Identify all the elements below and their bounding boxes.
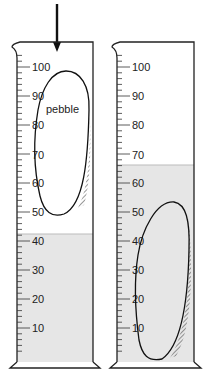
svg-text:90: 90 <box>32 90 44 102</box>
svg-text:80: 80 <box>32 119 44 131</box>
svg-text:60: 60 <box>132 177 144 189</box>
down-arrow-icon <box>53 4 61 52</box>
water-fill <box>17 234 93 362</box>
svg-text:40: 40 <box>32 235 44 247</box>
svg-text:80: 80 <box>132 119 144 131</box>
svg-text:30: 30 <box>132 264 144 276</box>
svg-text:50: 50 <box>132 206 144 218</box>
cylinder-base <box>10 362 100 368</box>
svg-text:90: 90 <box>132 90 144 102</box>
cylinder-before: 100 90 80 70 60 50 40 30 20 10 pebble <box>10 42 100 368</box>
svg-text:100: 100 <box>32 61 50 73</box>
cylinder-base <box>110 362 201 368</box>
svg-text:20: 20 <box>132 293 144 305</box>
svg-text:70: 70 <box>132 149 144 161</box>
svg-text:70: 70 <box>32 149 44 161</box>
cylinder-after: 100 90 80 70 60 50 40 30 20 10 <box>110 42 201 368</box>
pebble: pebble <box>35 71 91 215</box>
svg-text:20: 20 <box>32 293 44 305</box>
pebble-label: pebble <box>46 103 79 115</box>
svg-text:30: 30 <box>32 264 44 276</box>
displacement-diagram: 100 90 80 70 60 50 40 30 20 10 pebble 10… <box>0 0 209 387</box>
svg-text:10: 10 <box>32 322 44 334</box>
svg-text:50: 50 <box>32 206 44 218</box>
svg-text:100: 100 <box>132 61 150 73</box>
